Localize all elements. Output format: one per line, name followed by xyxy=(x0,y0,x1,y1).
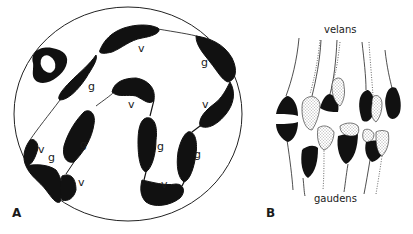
segment-label-g5: g xyxy=(157,140,164,153)
segment-label-g1: g xyxy=(201,56,208,69)
segment-label-g4: g xyxy=(80,138,87,151)
segment-label-v5: v xyxy=(78,176,85,189)
figure-canvas: v g g v v v g g g g v v A velans gaudens xyxy=(0,0,413,234)
segment-label-v2: v xyxy=(128,98,135,111)
segment-label-v3: v xyxy=(202,98,209,111)
panel-b: velans gaudens xyxy=(266,24,401,220)
panel-a: v g g v v v g g g g v v A xyxy=(12,7,242,221)
panel-a-label: A xyxy=(12,206,22,220)
segment-label-g6: g xyxy=(194,148,201,161)
segment-label-g3: g xyxy=(48,151,55,164)
panel-b-label: B xyxy=(266,206,275,220)
segment-label-g2: g xyxy=(88,80,95,93)
velans-label: velans xyxy=(324,24,357,35)
segment-label-v4: v xyxy=(38,143,45,156)
segment-label-v1: v xyxy=(138,42,145,55)
small-ring-chromosome xyxy=(32,48,67,83)
segment-label-v6: v xyxy=(161,178,168,191)
gaudens-label: gaudens xyxy=(314,193,357,204)
